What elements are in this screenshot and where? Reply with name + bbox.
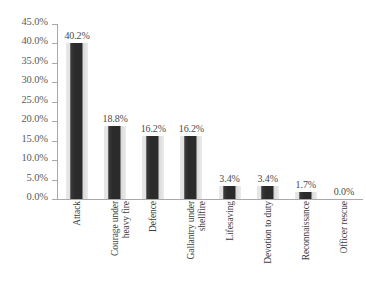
y-axis-tick-label: 45.0% <box>21 16 48 27</box>
y-axis: 0.0%5.0%10.0%15.0%20.0%25.0%30.0%35.0%40… <box>0 0 58 285</box>
y-axis-tick-label: 40.0% <box>21 35 48 46</box>
bar <box>104 126 126 199</box>
x-axis-category-label: Lifesaving <box>225 201 236 285</box>
bar <box>66 43 88 199</box>
plot-area: 40.2%18.8%16.2%16.2%3.4%3.4%1.7%0.0% <box>58 24 363 199</box>
y-axis-tick-label: 20.0% <box>21 113 48 124</box>
y-axis-tick-label: 30.0% <box>21 74 48 85</box>
bar-slot: 18.8% <box>104 24 126 199</box>
bar <box>219 186 241 199</box>
bar-value-label: 1.7% <box>296 179 316 190</box>
bar-slot: 0.0% <box>333 24 355 199</box>
bar-slot: 40.2% <box>66 24 88 199</box>
x-axis-category-label: Attack <box>72 201 83 285</box>
bar-value-label: 18.8% <box>103 113 128 124</box>
bar <box>295 192 317 199</box>
bar-slot: 3.4% <box>219 24 241 199</box>
y-axis-tick-label: 0.0% <box>27 191 48 202</box>
bar <box>142 136 164 199</box>
bar-value-label: 0.0% <box>334 186 354 197</box>
bar-slot: 16.2% <box>142 24 164 199</box>
x-axis-category-label: Reconnaissance <box>301 201 312 285</box>
x-axis-category-label: Officer rescue <box>339 201 350 285</box>
x-axis-category-label: Gallantry under shellfire <box>186 201 207 285</box>
bar-slot: 1.7% <box>295 24 317 199</box>
x-axis-category-label: Defence <box>148 201 159 285</box>
y-axis-tick-label: 35.0% <box>21 55 48 66</box>
x-axis-category-labels: AttackCourage under heavy fireDefenceGal… <box>58 201 363 285</box>
y-axis-tick-label: 25.0% <box>21 94 48 105</box>
y-axis-tick-label: 10.0% <box>21 152 48 163</box>
bar-value-label: 40.2% <box>64 30 89 41</box>
x-axis-category-label: Courage under heavy fire <box>110 201 131 285</box>
y-axis-tick-label: 15.0% <box>21 133 48 144</box>
y-axis-tick-label: 5.0% <box>27 172 48 183</box>
bar-chart: 0.0%5.0%10.0%15.0%20.0%25.0%30.0%35.0%40… <box>0 0 366 285</box>
bar-slot: 16.2% <box>180 24 202 199</box>
bar-value-label: 3.4% <box>219 173 239 184</box>
x-axis-category-label: Devotion to duty <box>263 201 274 285</box>
bar-value-label: 3.4% <box>257 173 277 184</box>
bar-value-label: 16.2% <box>141 123 166 134</box>
bar <box>180 136 202 199</box>
x-axis-line <box>57 199 363 200</box>
bar-slot: 3.4% <box>257 24 279 199</box>
bar-value-label: 16.2% <box>179 123 204 134</box>
bar <box>257 186 279 199</box>
